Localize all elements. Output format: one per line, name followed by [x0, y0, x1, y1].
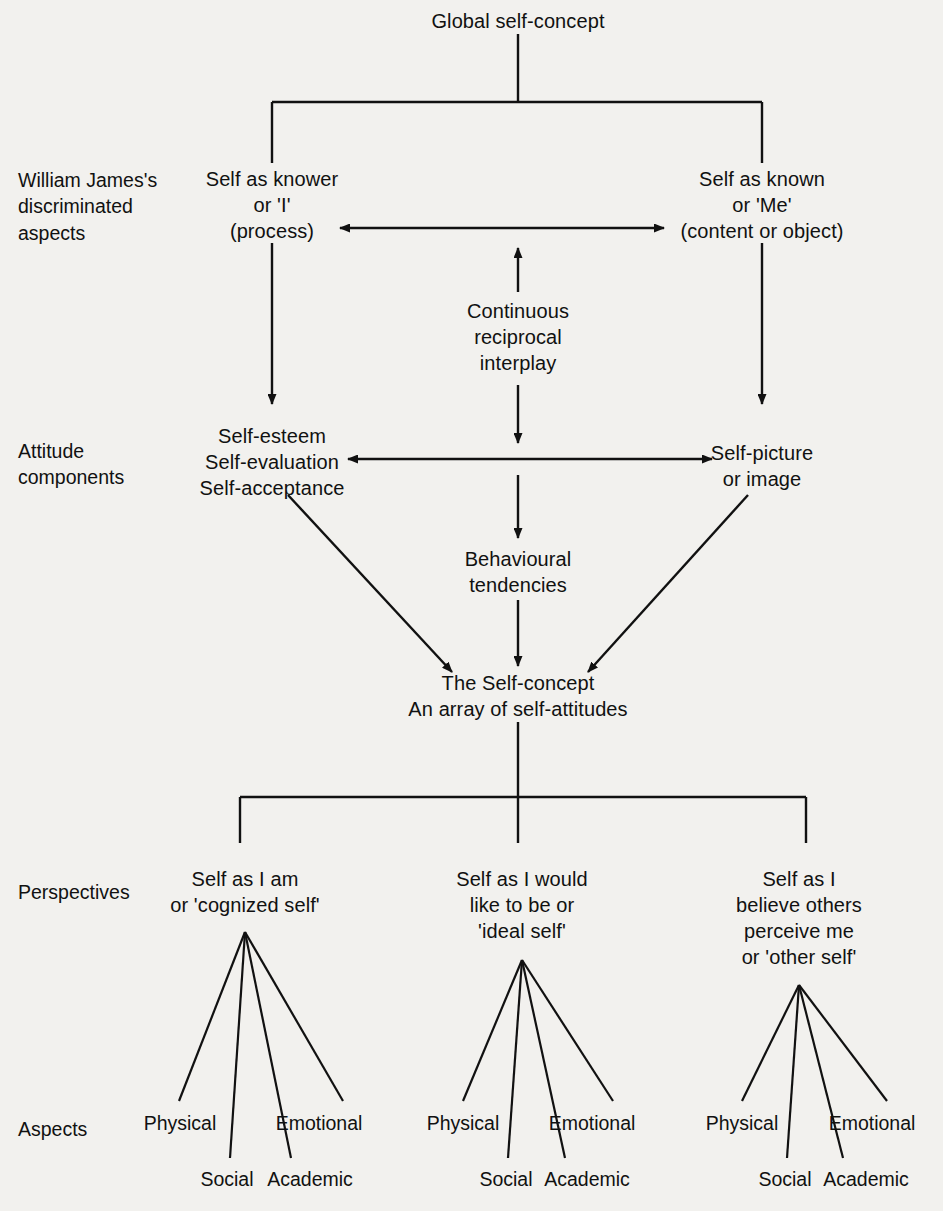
node-global-self-concept: Global self-concept [348, 8, 688, 34]
leaf-social-3: Social [758, 1168, 811, 1191]
node-self-as-known: Self as known or 'Me' (content or object… [602, 166, 922, 244]
leaf-social-1: Social [200, 1168, 253, 1191]
leaf-academic-1: Academic [267, 1168, 353, 1191]
node-perspective-ideal-self: Self as I would like to be or 'ideal sel… [377, 866, 667, 944]
node-self-esteem-group: Self-esteem Self-evaluation Self-accepta… [122, 423, 422, 501]
leaf-social-2: Social [479, 1168, 532, 1191]
node-behavioural-tendencies: Behavioural tendencies [388, 546, 648, 598]
row-label-attitude-components: Attitude components [18, 438, 124, 491]
node-self-as-knower: Self as knower or 'I' (process) [127, 166, 417, 244]
node-perspective-other-self: Self as I believe others perceive me or … [664, 866, 934, 970]
leaf-emotional-3: Emotional [829, 1112, 916, 1135]
leaf-emotional-1: Emotional [276, 1112, 363, 1135]
leaf-physical-2: Physical [427, 1112, 500, 1135]
leaf-academic-2: Academic [544, 1168, 630, 1191]
leaf-physical-1: Physical [144, 1112, 217, 1135]
leaf-academic-3: Academic [823, 1168, 909, 1191]
node-self-picture: Self-picture or image [622, 440, 902, 492]
node-continuous-reciprocal-interplay: Continuous reciprocal interplay [398, 298, 638, 376]
node-the-self-concept: The Self-concept An array of self-attitu… [308, 670, 728, 722]
diagram-canvas: William James's discriminated aspects At… [0, 0, 943, 1211]
leaf-emotional-2: Emotional [549, 1112, 636, 1135]
node-perspective-cognized-self: Self as I am or 'cognized self' [95, 866, 395, 918]
leaf-physical-3: Physical [706, 1112, 779, 1135]
row-label-aspects: Aspects [18, 1116, 87, 1142]
